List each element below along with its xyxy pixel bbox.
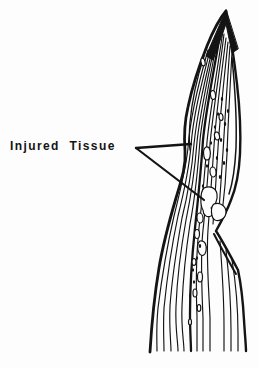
callout-upper-line <box>136 144 191 148</box>
leaf-vein <box>220 241 224 351</box>
leaf-fold-crease <box>214 234 236 274</box>
injured-lesion <box>211 203 226 220</box>
injury-speck <box>227 109 229 113</box>
injured-lesion <box>209 167 216 178</box>
injury-speck <box>217 112 219 116</box>
figure-canvas: Injured Tissue <box>0 0 258 368</box>
injury-speck <box>202 184 204 188</box>
injury-speck <box>206 164 208 168</box>
injured-lesion <box>198 241 207 256</box>
injured-lesion <box>197 305 201 312</box>
injured-lesion <box>198 272 203 282</box>
injury-speck <box>220 138 222 142</box>
injury-speck <box>223 161 225 165</box>
injured-lesion <box>219 113 224 120</box>
leaf-illustration <box>0 0 258 368</box>
injured-tissue-label: Injured Tissue <box>10 139 116 153</box>
injury-speck <box>199 244 201 248</box>
injury-speck <box>196 256 198 260</box>
injured-lesion <box>197 213 204 223</box>
injury-speck <box>193 280 195 284</box>
injured-lesion <box>189 319 192 325</box>
injury-speck <box>214 125 216 129</box>
injury-speck <box>224 122 226 126</box>
injury-speck <box>210 141 212 145</box>
injured-lesion <box>204 147 211 160</box>
injured-lesion <box>214 132 220 141</box>
injured-lesion <box>210 90 216 100</box>
injured-lesion <box>192 259 196 266</box>
injury-speck <box>192 268 194 272</box>
injury-speck <box>189 294 191 297</box>
injury-speck <box>221 97 223 101</box>
injury-speck <box>216 156 218 160</box>
injured-lesion <box>195 230 200 239</box>
injury-speck <box>226 148 228 152</box>
injury-speck <box>219 175 221 179</box>
injured-lesion <box>193 289 197 297</box>
